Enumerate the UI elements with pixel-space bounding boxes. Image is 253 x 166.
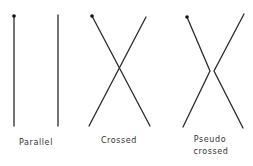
strand-configuration-diagram: Parallel Crossed Pseudo crossed xyxy=(0,0,253,166)
panel-pseudo-crossed: Pseudo crossed xyxy=(183,14,244,156)
label-parallel: Parallel xyxy=(19,138,53,147)
panel-parallel: Parallel xyxy=(12,14,58,147)
crossed-line-a xyxy=(92,16,150,126)
pseudo-crossed-line-right xyxy=(214,14,244,128)
label-crossed-sub: crossed xyxy=(194,147,229,156)
start-dot-icon xyxy=(185,15,189,19)
pseudo-crossed-line-left xyxy=(183,17,210,127)
crossed-line-b xyxy=(89,17,146,126)
label-crossed: Crossed xyxy=(101,136,137,145)
start-dot-icon xyxy=(90,14,94,18)
panel-crossed: Crossed xyxy=(89,14,150,145)
label-pseudo: Pseudo xyxy=(194,135,226,144)
start-dot-icon xyxy=(12,14,16,18)
